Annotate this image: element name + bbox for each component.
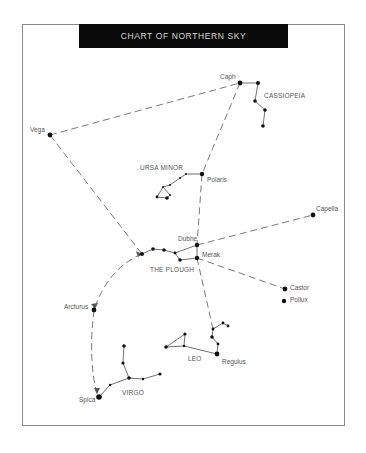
guide-line-dubhe-capella bbox=[197, 215, 313, 245]
label-vega: Vega bbox=[30, 126, 45, 134]
star-ursa-minor-7[interactable] bbox=[156, 196, 159, 199]
label-castor: Castor bbox=[290, 284, 310, 291]
star-leo-7[interactable] bbox=[183, 345, 185, 347]
star-virgo-6[interactable] bbox=[122, 344, 126, 348]
guide-line-plough-arcturus bbox=[94, 254, 142, 310]
arrowheads bbox=[91, 251, 142, 394]
label-dubhe: Dubhe bbox=[178, 235, 198, 242]
label-pollux: Pollux bbox=[290, 296, 308, 303]
star-plough-2[interactable] bbox=[151, 247, 155, 251]
star-virgo-5[interactable] bbox=[158, 372, 161, 375]
label-caph: Caph bbox=[220, 73, 236, 81]
label-the-plough: THE PLOUGH bbox=[150, 266, 194, 273]
star-plough-handle[interactable] bbox=[140, 252, 144, 256]
guide-line-vega-plough bbox=[50, 135, 142, 254]
leo-lines-a bbox=[166, 323, 228, 354]
star-ursa-minor-5[interactable] bbox=[162, 186, 164, 188]
label-ursa-minor: URSA MINOR bbox=[140, 164, 183, 171]
star-ursa-minor-4[interactable] bbox=[169, 184, 171, 186]
star-virgo-2[interactable] bbox=[109, 384, 111, 386]
star-merak[interactable] bbox=[195, 256, 199, 260]
star-cassiopeia-5[interactable] bbox=[261, 124, 265, 128]
star-cassiopeia-3[interactable] bbox=[253, 99, 257, 103]
star-ursa-minor-8[interactable] bbox=[165, 196, 169, 200]
star-ursa-minor-3[interactable] bbox=[179, 177, 181, 179]
star-cassiopeia-4[interactable] bbox=[263, 108, 267, 112]
star-chart: Caph CASSIOPEIA Vega URSA MINOR Polaris … bbox=[0, 0, 366, 453]
star-plough-5[interactable] bbox=[178, 258, 182, 262]
label-polaris: Polaris bbox=[207, 176, 228, 183]
star-virgo-7[interactable] bbox=[121, 361, 124, 364]
star-cassiopeia-2[interactable] bbox=[256, 81, 260, 85]
star-pollux[interactable] bbox=[282, 299, 286, 303]
label-spica: Spica bbox=[79, 396, 96, 404]
star-arcturus[interactable] bbox=[92, 308, 97, 313]
label-leo: LEO bbox=[188, 355, 202, 362]
star-vega[interactable] bbox=[48, 133, 53, 138]
star-plough-3[interactable] bbox=[162, 248, 166, 252]
guide-line-merak-regulus bbox=[197, 258, 213, 329]
star-leo-3[interactable] bbox=[210, 335, 214, 339]
guide-line-caph-polaris-dubhe bbox=[197, 83, 240, 245]
star-spica[interactable] bbox=[96, 394, 102, 400]
star-plough-4[interactable] bbox=[174, 252, 177, 255]
label-cassiopeia: CASSIOPEIA bbox=[264, 92, 306, 99]
labels: Caph CASSIOPEIA Vega URSA MINOR Polaris … bbox=[30, 73, 338, 404]
label-arcturus: Arcturus bbox=[64, 303, 89, 310]
star-ursa-minor-2[interactable] bbox=[185, 173, 187, 175]
star-capella[interactable] bbox=[311, 213, 316, 218]
label-capella: Capella bbox=[316, 205, 338, 213]
star-leo-8[interactable] bbox=[164, 345, 168, 349]
plough-lines bbox=[142, 245, 197, 260]
star-leo-2[interactable] bbox=[217, 343, 220, 346]
label-regulus: Regulus bbox=[222, 358, 247, 366]
guide-line-arcturus-spica bbox=[92, 310, 97, 394]
star-leo-6[interactable] bbox=[227, 325, 230, 328]
star-ursa-minor-6[interactable] bbox=[169, 194, 171, 196]
star-virgo-3[interactable] bbox=[127, 376, 131, 380]
star-virgo-4[interactable] bbox=[142, 378, 144, 380]
label-merak: Merak bbox=[202, 251, 221, 258]
star-castor[interactable] bbox=[283, 287, 288, 292]
star-leo-4[interactable] bbox=[212, 328, 215, 331]
star-regulus[interactable] bbox=[215, 352, 220, 357]
guide-line-vega-caph bbox=[50, 83, 240, 135]
arrowhead-spica bbox=[94, 388, 100, 394]
star-caph[interactable] bbox=[238, 81, 243, 86]
cassiopeia-lines bbox=[240, 83, 265, 126]
star-leo-9[interactable] bbox=[183, 332, 186, 335]
star-leo-5[interactable] bbox=[222, 322, 225, 325]
star-dubhe[interactable] bbox=[195, 243, 199, 247]
guide-line-merak-castor bbox=[197, 258, 285, 289]
label-virgo: VIRGO bbox=[122, 389, 144, 396]
star-polaris[interactable] bbox=[200, 172, 204, 176]
